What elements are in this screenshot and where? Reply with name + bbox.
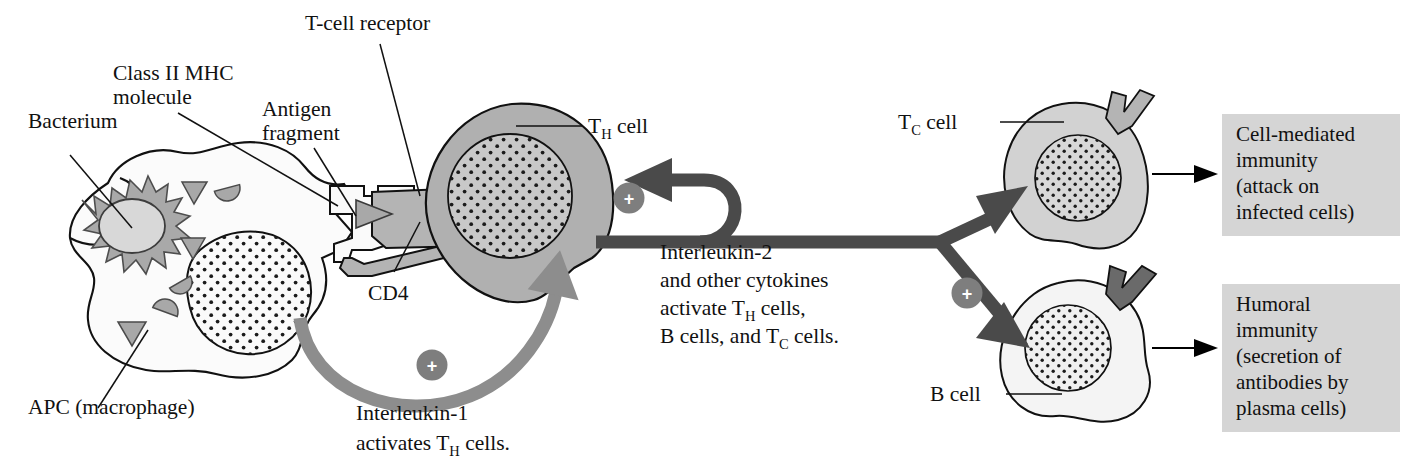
th-cell-nucleus-dots <box>448 134 572 258</box>
label-th-cell: TH cell <box>588 114 648 142</box>
il2-line3: activate TH cells, <box>660 296 806 324</box>
outcome-cm-line1: Cell-mediated <box>1236 122 1355 146</box>
plus-badge-il2-th: + <box>614 183 645 214</box>
label-apc: APC (macrophage) <box>28 395 195 419</box>
immunity-diagram-canvas: + + + Bacterium Class II MHC molecule An… <box>0 0 1414 468</box>
il2-line2: and other cytokines <box>660 268 828 292</box>
outcome-hu-line1: Humoral <box>1236 292 1311 316</box>
macrophage-nucleus-dots <box>187 232 311 355</box>
tc-cell-nucleus-dots <box>1035 135 1121 221</box>
plus-badge-il2-th-label: + <box>624 189 635 209</box>
label-b-cell: B cell <box>930 382 981 406</box>
label-tc-cell: TC cell <box>898 110 957 138</box>
output-arrow-cell-mediated <box>1152 165 1218 183</box>
plus-badge-il2-right-label: + <box>962 284 973 304</box>
tc-cell[interactable] <box>1004 90 1154 248</box>
il1-line1: Interleukin-1 <box>356 401 468 425</box>
plus-badge-il1: + <box>417 350 448 381</box>
outcome-box-humoral[interactable]: Humoral immunity (secretion of antibodie… <box>1222 284 1400 432</box>
outcome-cm-line3: (attack on <box>1236 174 1320 198</box>
outcome-cm-line4: infected cells) <box>1236 200 1354 224</box>
label-cd4: CD4 <box>368 281 409 305</box>
label-antigen-line1: Antigen <box>262 97 332 121</box>
il2-line1: Interleukin-2 <box>660 240 772 264</box>
th-cell[interactable] <box>426 104 613 303</box>
outcome-hu-line2: immunity <box>1236 318 1318 342</box>
label-tcell-receptor: T-cell receptor <box>305 11 430 35</box>
label-class-ii-mhc-line2: molecule <box>113 85 192 109</box>
b-cell-nucleus-dots <box>1025 305 1111 391</box>
il2-line4: B cells, and TC cells. <box>660 324 839 352</box>
outcome-hu-line5: plasma cells) <box>1236 396 1346 420</box>
tc-receptor-icon <box>1106 90 1154 134</box>
bacterium-body <box>99 199 165 253</box>
label-class-ii-mhc-line1: Class II MHC <box>113 61 234 85</box>
il1-line2: activates TH cells. <box>356 431 510 459</box>
outcome-hu-line4: antibodies by <box>1236 370 1349 394</box>
label-bacterium: Bacterium <box>28 109 118 133</box>
outcome-hu-line3: (secretion of <box>1236 344 1342 368</box>
plus-badge-il2-right: + <box>952 278 983 309</box>
label-antigen-line2: fragment <box>262 121 340 145</box>
outcome-cm-line2: immunity <box>1236 148 1318 172</box>
diagram-svg: + + + Bacterium Class II MHC molecule An… <box>0 0 1414 468</box>
output-arrow-humoral <box>1152 339 1218 357</box>
outcome-box-cell-mediated[interactable]: Cell-mediated immunity (attack on infect… <box>1222 114 1400 236</box>
plus-badge-il1-label: + <box>427 356 438 376</box>
leader-tcell-receptor <box>380 44 420 196</box>
b-cell-antibody-icon <box>1106 266 1156 310</box>
